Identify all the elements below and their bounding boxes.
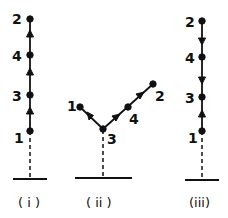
arrow-up-icon	[27, 68, 34, 75]
node-4	[27, 52, 33, 58]
node-1	[199, 128, 205, 134]
label-4: 4	[12, 48, 22, 64]
arrow-up-icon	[199, 110, 206, 117]
arrow-down-icon	[199, 77, 206, 84]
arrow-up-icon	[27, 107, 34, 114]
node-2	[199, 18, 205, 24]
caption-ii: ( ii )	[86, 195, 112, 210]
label-1: 1	[67, 98, 77, 114]
label-1: 1	[14, 130, 24, 146]
label-2: 2	[155, 88, 165, 104]
label-2: 2	[12, 11, 22, 27]
node-3	[100, 126, 106, 132]
panel-i-labels: 2 4 3 1 ( i )	[12, 11, 40, 210]
arrow-down-icon	[199, 38, 206, 45]
label-4: 4	[129, 111, 139, 127]
chain-diagram: 2 4 3 1 ( i ) 1 3 4 2 ( ii )	[0, 0, 228, 218]
node-4	[199, 54, 205, 60]
node-3	[199, 94, 205, 100]
label-2: 2	[185, 14, 195, 30]
caption-i: ( i )	[18, 195, 40, 210]
node-1	[27, 128, 33, 134]
node-2	[27, 16, 33, 22]
caption-iii: (iii)	[189, 195, 210, 210]
panel-ii	[75, 81, 156, 178]
label-3: 3	[12, 88, 22, 104]
node-2	[150, 81, 156, 87]
node-4	[125, 104, 131, 110]
label-3: 3	[185, 90, 195, 106]
node-3	[27, 92, 33, 98]
node-1	[77, 104, 83, 110]
label-1: 1	[188, 130, 198, 146]
arrow-up-icon	[27, 30, 34, 37]
label-4: 4	[185, 50, 195, 66]
label-3: 3	[107, 131, 117, 147]
